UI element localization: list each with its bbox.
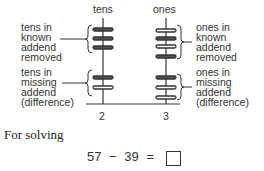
ones-column-label: ones (153, 3, 176, 15)
tens-column-label: tens (93, 3, 113, 15)
equation-equals: = (146, 149, 154, 164)
equation: 57 − 39 = (87, 149, 158, 164)
equation-minus: − (109, 149, 117, 164)
ones-missing-label: ones in missing addend (difference) (196, 67, 249, 107)
answer-box (166, 151, 181, 166)
equation-right: 39 (124, 149, 138, 164)
ones-digit: 3 (163, 110, 169, 122)
caption: For solving (4, 127, 64, 143)
equation-left: 57 (87, 149, 101, 164)
tens-digit: 2 (99, 110, 105, 122)
tens-known-label: tens in known addend removed (21, 22, 62, 62)
tens-missing-label: tens in missing addend (difference) (21, 67, 74, 107)
ones-known-label: ones in known addend removed (196, 22, 237, 62)
